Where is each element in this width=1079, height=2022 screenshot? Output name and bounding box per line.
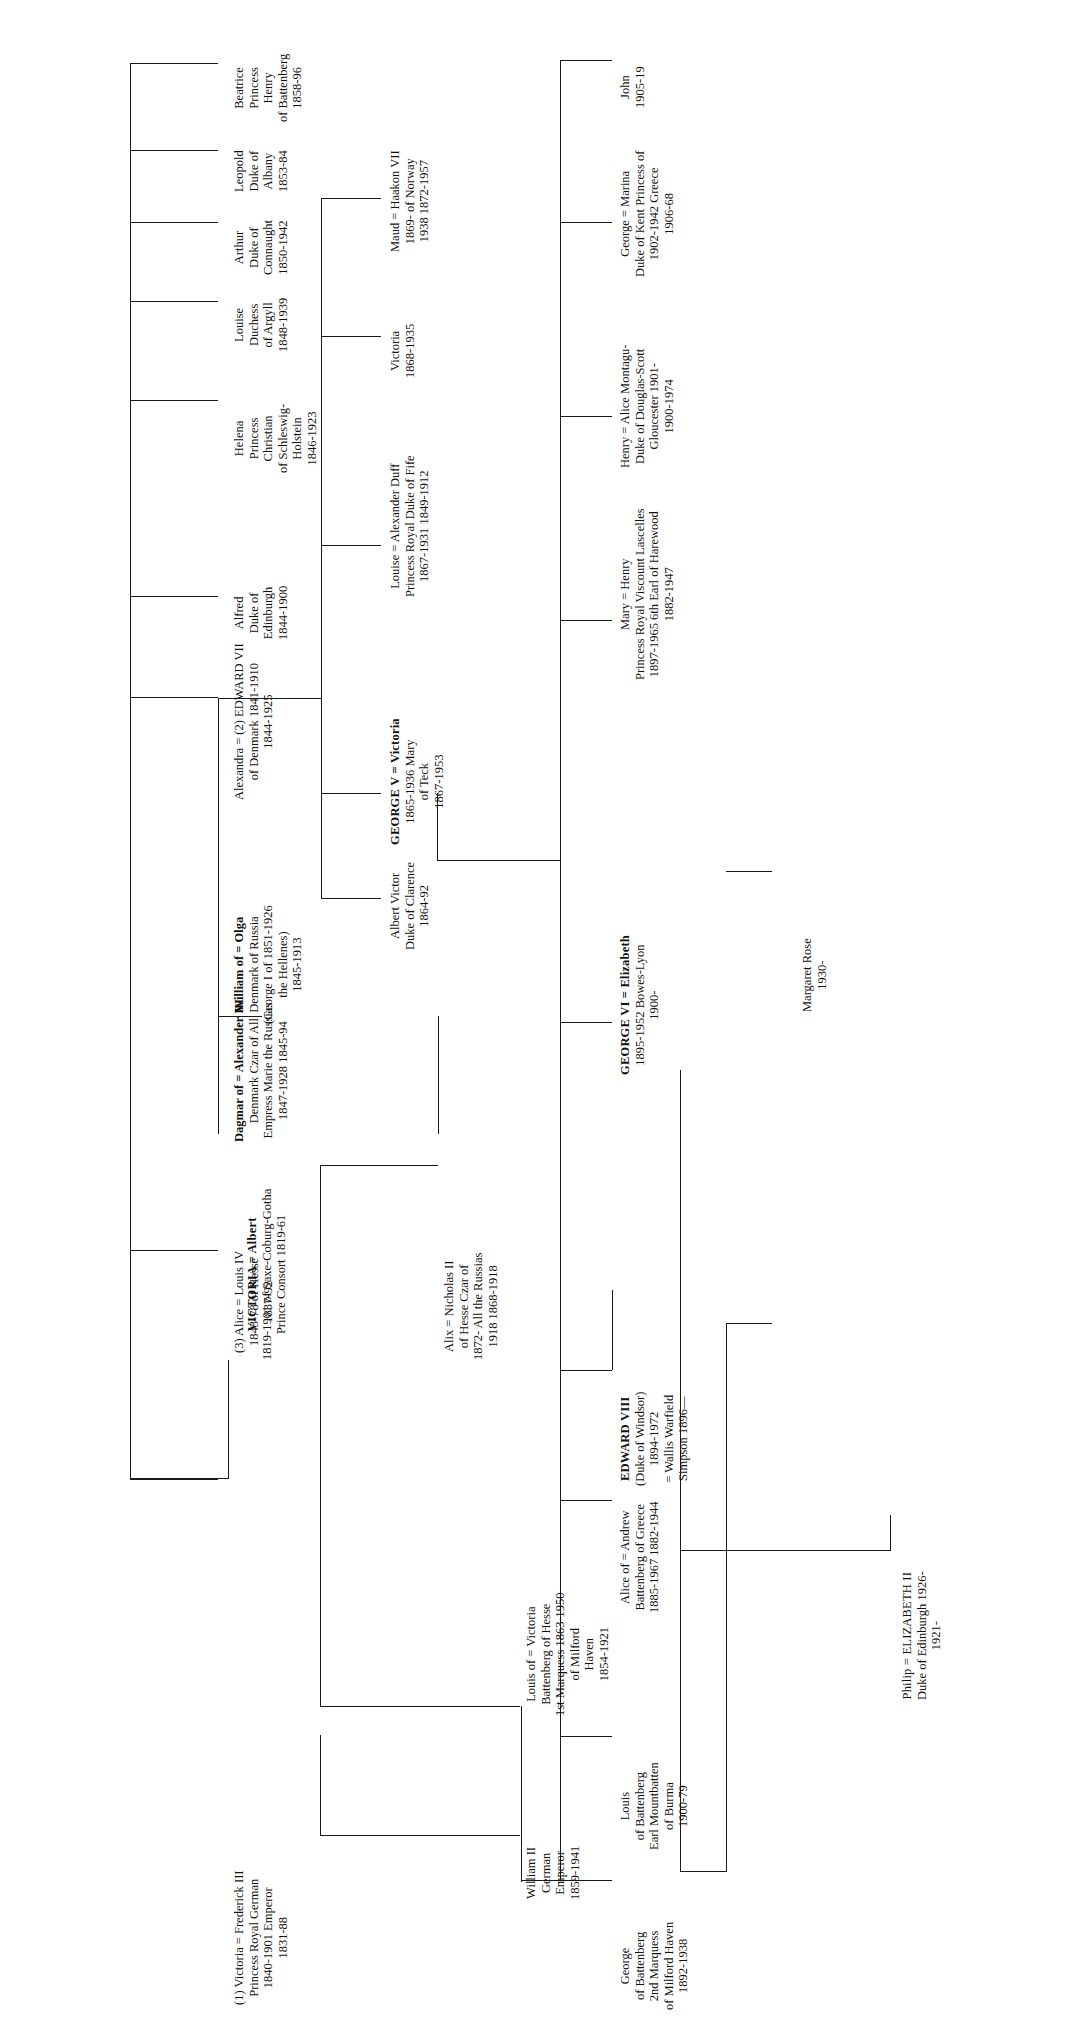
stub-albert-victor [321,898,381,899]
edward-viii-line-3: 1894-1972 [647,1392,662,1486]
node-william-ii-german-emperor: William II German Emperor 1859-1941 [524,1846,582,1900]
louis-mb-line-2: of Battenberg [633,1762,648,1850]
margaret-rose-line-2: 1930- [815,938,830,1012]
mary-pr-line-4: 1882-1947 [662,508,677,680]
leopold-line-4: 1853-84 [276,150,291,192]
stub-elizabeth-ii [726,1323,772,1324]
stub-alice-battenberg [560,1500,612,1501]
margaret-rose-line-1: Margaret Rose [800,938,815,1012]
victoria-pr-line-1: (1) Victoria = Frederick III [232,1871,247,2006]
connector-alix-vertical [438,1016,439,1134]
alice-batt-line-1: Alice of = Andrew [618,1502,633,1613]
william-ii-line-1: William II [524,1846,539,1900]
connector-alice-spine-to-louis [320,1706,520,1707]
spine-denmark-siblings [218,698,219,1134]
henry-glouc-line-2: Duke of Douglas-Scott [633,345,648,468]
henry-glouc-line-4: 1900-1974 [662,345,677,468]
stub-mary-pr [560,620,612,621]
node-william-of-denmark-george-i: William of = Olga Denmark of Russia (Geo… [232,905,305,1024]
node-alfred-duke-of-edinburgh: Alfred Duke of Edinburgh 1844-1900 [232,586,290,640]
node-george-of-battenberg: George of Battenberg 2nd Marquess of Mil… [618,1922,691,2010]
stub-alice [130,1250,218,1251]
stub-george-kent [560,222,612,223]
node-margaret-rose: Margaret Rose 1930- [800,938,829,1012]
louis-mb-line-1: Louis [618,1762,633,1850]
william-dk-line-1: William of = Olga [232,905,247,1024]
edward-vii-line-1: Alexandra = (2) EDWARD VII [232,643,247,800]
george-batt-line-3: 2nd Marquess [647,1922,662,2010]
mary-pr-line-3: 1897-1965 6th Earl of Harewood [647,508,662,680]
victoria-pr-line-2: Princess Royal German [247,1871,262,2006]
node-edward-viii: EDWARD VIII (Duke of Windsor) 1894-1972 … [618,1392,691,1486]
albert-victor-line-1: Albert Victor [388,862,403,950]
william-dk-line-2: Denmark of Russia [247,905,262,1024]
louise-argyll-line-1: Louise [232,298,247,352]
stub-helena [130,400,218,401]
louis-mb-line-5: 1900-79 [676,1762,691,1850]
stub-louise-pr [321,545,381,546]
george-batt-line-5: 1892-1938 [676,1922,691,2010]
alfred-line-3: Edinburgh [261,586,276,640]
family-tree-chart: VICTORIA = Albert 1819-1901 of Saxe-Cobu… [0,0,1079,2022]
alfred-line-4: 1844-1900 [276,586,291,640]
arthur-line-4: 1850-1942 [276,220,291,275]
louise-pr-line-2: Princess Royal Duke of Fife [403,455,418,597]
louis-batt-line-4: of Milford [568,1592,583,1716]
alice-batt-line-3: 1885-1967 1882-1944 [647,1502,662,1613]
connector-victoria-pr-to-william [320,1835,520,1836]
spine-generation-2 [130,63,131,1479]
john-line-1: John [618,66,633,108]
edward-vii-line-3: 1844-1925 [261,643,276,800]
alice-line-3: 1837-92 [261,1251,276,1353]
george-vi-line-2: 1895-1952 Bowes-Lyon [633,935,648,1075]
node-louise-duchess-of-argyll: Louise Duchess of Argyll 1848-1939 [232,298,290,352]
node-alice-of-battenberg: Alice of = Andrew Battenberg of Greece 1… [618,1502,662,1613]
beatrice-line-2: Princess [247,54,262,122]
stub-louis-mountbatten [560,1736,612,1737]
alix-line-3: 1872- All the Russias [471,1253,486,1360]
george-vi-line-3: 1900- [647,935,662,1075]
connector-edward-viii-elbow-v [612,1290,613,1370]
victoria-pr-line-3: 1840-1901 Emperor [261,1871,276,2006]
maud-line-1: Maud = Haakon VII [388,150,403,252]
stub-alix [320,1165,438,1166]
louis-mb-line-3: Earl Mountbatten [647,1762,662,1850]
arthur-line-2: Duke of [247,220,262,275]
connector-george-vi-down [680,1871,727,1872]
node-alice-of-hesse: (3) Alice = Louis IV 1843-78 of Hesse 18… [232,1251,276,1353]
mary-pr-line-1: Mary = Henry [618,508,633,680]
william-dk-line-4: the Hellenes) [276,905,291,1024]
george-v-line-2: 1865-1936 Mary [403,718,418,845]
node-maud-of-norway: Maud = Haakon VII 1869- of Norway 1938 1… [388,150,432,252]
stub-george-vi [560,1022,612,1023]
louis-batt-line-3: 1st Marquess 1863-1950 [553,1592,568,1716]
albert-victor-line-3: 1864-92 [417,862,432,950]
node-george-vi: GEORGE VI = Elizabeth 1895-1952 Bowes-Ly… [618,935,662,1075]
george-v-line-4: 1867-1953 [432,718,447,845]
arthur-line-3: Connaught [261,220,276,275]
connector-victoria-pr-stem [320,1735,321,1835]
node-mary-princess-royal: Mary = Henry Princess Royal Viscount Las… [618,508,676,680]
connector-george-battenberg-v [521,1706,522,1882]
node-beatrice: Beatrice Princess Henry of Battenberg 18… [232,54,305,122]
louis-batt-line-6: 1854-1921 [597,1592,612,1716]
louis-batt-line-5: Haven [582,1592,597,1716]
arthur-line-1: Arthur [232,220,247,275]
george-vi-line-1: GEORGE VI = Elizabeth [618,935,633,1075]
elizabeth-ii-line-3: 1921- [929,1571,944,1700]
edward-viii-line-1: EDWARD VIII [618,1392,633,1486]
edward-viii-line-2: (Duke of Windsor) [633,1392,648,1486]
alix-line-4: 1918 1868-1918 [486,1253,501,1360]
william-dk-line-3: (George I of 1851-1926 [261,905,276,1024]
louis-mb-line-4: of Burma [662,1762,677,1850]
stub-margaret-rose [726,871,772,872]
node-victoria-1868: Victoria 1868-1935 [388,324,417,378]
stub-louise-argyll [130,301,218,302]
george-v-line-1: GEORGE V = Victoria [388,718,403,845]
stub-john [560,60,612,61]
beatrice-line-3: Henry [261,54,276,122]
george-kent-line-1: George = Marina [618,151,633,277]
node-helena-princess-christian: Helena Princess Christian of Schleswig- … [232,404,319,473]
edward-viii-line-5: Simpson 1896— [676,1392,691,1486]
connector-root-stem [228,1360,229,1478]
